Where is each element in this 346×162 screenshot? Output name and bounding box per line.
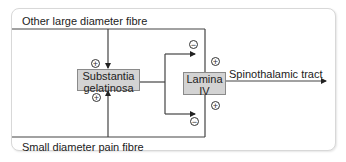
bottom-fibre-label: Small diameter pain fibre	[22, 141, 144, 153]
plus-sign-icon: +	[92, 93, 101, 102]
lamina-label-line1: Lamina	[184, 73, 225, 85]
sg-label-line1: Substantia	[78, 70, 139, 82]
lamina-label-line2: IV	[184, 85, 225, 97]
plus-sign-icon: +	[211, 101, 220, 110]
sg-label-line2: gelatinosa	[78, 82, 139, 94]
minus-sign-icon: −	[189, 40, 198, 49]
plus-sign-icon: +	[91, 59, 100, 68]
lamina-iv-box: Lamina IV	[183, 72, 226, 95]
minus-sign-icon: −	[190, 117, 199, 126]
spinothalamic-tract-label: Spinothalamic tract	[229, 68, 323, 80]
top-fibre-label: Other large diameter fibre	[22, 15, 147, 27]
substantia-gelatinosa-box: Substantia gelatinosa	[77, 69, 140, 91]
plus-sign-icon: +	[211, 57, 220, 66]
